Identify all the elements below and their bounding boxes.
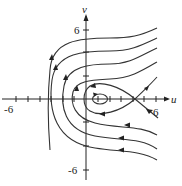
phase-portrait-figure: v u 6 -6 -6 6 [0,0,182,186]
trajectory-3-lower-arrow-icon [118,148,124,153]
v-axis-arrow-icon [84,14,89,21]
u-axis-arrow-icon [164,97,170,102]
v-tick-label-6: 6 [74,24,80,36]
axes: v u 6 -6 -6 6 [2,3,177,180]
separatrix-arrow-bottom-icon [99,112,105,117]
trajectory-4 [48,28,157,150]
trajectory-2-lower-arrow-icon [118,136,124,141]
v-tick-label-neg6: -6 [68,164,78,176]
trajectories [48,28,158,160]
u-axis-label: u [171,93,177,105]
v-axis-label: v [82,3,87,15]
phase-portrait-svg: v u 6 -6 -6 6 [0,0,182,186]
u-tick-label-neg6: -6 [4,103,14,115]
